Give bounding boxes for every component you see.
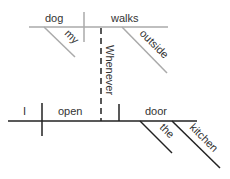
main-subject: dog xyxy=(45,12,63,24)
modifier-outside: outside xyxy=(138,27,172,61)
sub-subject: I xyxy=(23,105,26,117)
modifier-kitchen: kitchen xyxy=(188,121,221,154)
sub-verb: open xyxy=(58,105,82,117)
modifier-my: my xyxy=(63,27,82,46)
main-verb: walks xyxy=(110,12,139,24)
sub-object: door xyxy=(145,105,167,117)
sentence-diagram: dog walks my outside Whenever I open doo… xyxy=(0,0,230,179)
connector-word: Whenever xyxy=(104,45,116,95)
